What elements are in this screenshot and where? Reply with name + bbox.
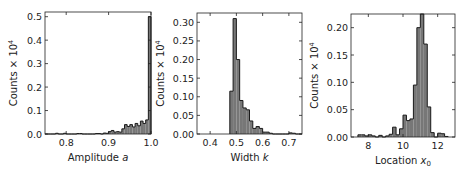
- histogram-bar: [132, 127, 135, 134]
- y-tick-label: 0.5: [27, 11, 42, 22]
- width-histogram-panel: 0.40.50.60.70.000.050.100.150.200.250.30…: [154, 13, 302, 163]
- x-tick-label: 0.5: [229, 137, 244, 148]
- x-tick-label: 0.9: [101, 137, 116, 148]
- axes-frame: [45, 12, 151, 134]
- x-tick-label: 1.0: [143, 137, 158, 148]
- y-tick-label: 0.2: [27, 82, 42, 93]
- histogram-bar: [243, 108, 246, 134]
- x-tick-label: 12: [432, 140, 444, 151]
- y-tick-label: 0.20: [173, 54, 194, 65]
- y-tick-label: 0.15: [327, 50, 348, 61]
- y-tick-label: 0.00: [173, 129, 194, 140]
- histogram-outline: [45, 17, 151, 134]
- x-axis-label: Amplitude a: [68, 152, 129, 163]
- x-tick-label: 0.6: [255, 137, 270, 148]
- histogram-bar: [127, 126, 130, 134]
- histogram-bar: [427, 107, 430, 137]
- histogram-bar: [143, 123, 146, 134]
- histogram-outline: [358, 14, 448, 137]
- histogram-bar: [403, 115, 406, 137]
- x-tick-label: 0.8: [59, 137, 74, 148]
- figure-canvas: 0.80.91.00.00.10.20.30.40.5Amplitude aCo…: [0, 0, 466, 169]
- histogram-bar: [431, 133, 434, 137]
- y-tick-label: 0.00: [327, 132, 348, 143]
- y-tick-label: 0.15: [173, 73, 194, 84]
- histogram-bar: [393, 127, 396, 137]
- histogram-bar: [410, 119, 413, 137]
- histogram-bar: [420, 14, 423, 137]
- y-axis-label: Counts × 104: [7, 40, 19, 107]
- x-tick-label: 10: [397, 140, 409, 151]
- histogram-bar: [438, 133, 441, 137]
- histogram-bar: [413, 85, 416, 137]
- y-tick-label: 0.4: [27, 35, 42, 46]
- y-axis-label: Counts × 104: [308, 42, 320, 109]
- histogram-bar: [138, 126, 141, 134]
- y-tick-label: 0.0: [27, 129, 42, 140]
- y-tick-label: 0.05: [327, 104, 348, 115]
- y-tick-label: 0.1: [27, 105, 42, 116]
- histogram-bars: [56, 17, 151, 134]
- histogram-figure: 0.80.91.00.00.10.20.30.40.5Amplitude aCo…: [0, 0, 466, 169]
- y-axis-label: Counts × 104: [154, 40, 166, 107]
- y-tick-label: 0.10: [173, 91, 194, 102]
- y-tick-label: 0.05: [173, 110, 194, 121]
- histogram-bar: [253, 128, 256, 134]
- x-tick-label: 8: [365, 140, 371, 151]
- histogram-bar: [424, 44, 427, 137]
- amplitude-histogram-panel: 0.80.91.00.00.10.20.30.40.5Amplitude aCo…: [7, 11, 159, 163]
- y-tick-label: 0.20: [327, 22, 348, 33]
- histogram-bar: [417, 28, 420, 137]
- histogram-bar: [400, 129, 403, 137]
- x-axis-label: Location x0: [375, 155, 431, 168]
- y-tick-label: 0.30: [173, 17, 194, 28]
- histogram-bar: [406, 121, 409, 137]
- y-tick-label: 0.25: [173, 35, 194, 46]
- x-axis-label: Width k: [230, 152, 269, 163]
- x-tick-label: 0.7: [281, 137, 296, 148]
- y-tick-label: 0.3: [27, 58, 42, 69]
- location-histogram-panel: 810120.000.050.100.150.20Location x0Coun…: [308, 14, 455, 168]
- x-tick-label: 0.4: [203, 137, 218, 148]
- y-tick-label: 0.10: [327, 77, 348, 88]
